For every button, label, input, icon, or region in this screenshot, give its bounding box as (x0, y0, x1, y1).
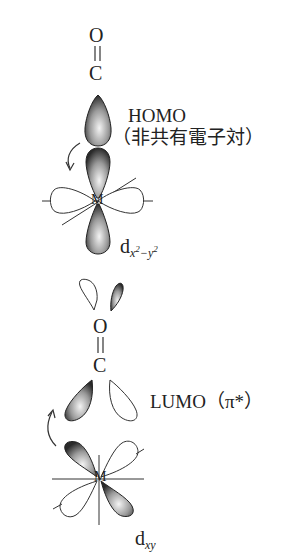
donation-arrow (68, 143, 80, 168)
dxy-sw-lobe (60, 481, 97, 517)
orbital-d: d (120, 235, 130, 257)
top-metal-label: M (91, 193, 103, 207)
dx2y2-left-lobe (50, 188, 95, 214)
bottom-carbon-atom: C (93, 355, 106, 375)
dx2y2-label: dx2−y2 (120, 236, 158, 259)
bottom-co-double-bond (98, 337, 103, 353)
lumo-c-left-lobe (65, 380, 93, 421)
homo-sublabel: （非共有電子対） (112, 128, 264, 147)
lumo-c-right-lobe (110, 380, 138, 421)
top-oxygen-atom: O (89, 25, 103, 45)
sub-xy: xy (145, 538, 156, 552)
dx2y2-top-lobe (86, 148, 110, 198)
sup-2b: 2 (153, 244, 158, 254)
lumo-label: LUMO（π*） (150, 392, 263, 411)
dxy-ne-lobe (101, 441, 138, 477)
dxy-se-lobe (101, 481, 133, 517)
sub-minus: − (140, 246, 148, 260)
orbital-diagram (0, 0, 288, 559)
bottom-metal-label: M (94, 470, 106, 484)
dxy-label: dxy (135, 528, 156, 551)
dx2y2-bottom-lobe (86, 204, 110, 254)
lumo-o-right-lobe (111, 283, 123, 311)
top-carbon-atom: C (89, 63, 102, 83)
lumo-o-left-lobe (79, 279, 97, 310)
homo-lobe (85, 95, 111, 146)
orbital-d-xy: d (135, 527, 145, 549)
donation-arrow-head (66, 162, 74, 170)
bottom-oxygen-atom: O (93, 316, 107, 336)
homo-label: HOMO (128, 106, 186, 125)
dx2y2-right-lobe (98, 188, 144, 214)
top-co-double-bond (95, 46, 100, 61)
dxy-nw-lobe (65, 441, 97, 477)
